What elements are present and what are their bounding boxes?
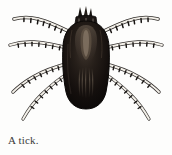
figure-page: A tick.: [0, 0, 172, 155]
figure-caption: A tick.: [8, 134, 39, 147]
tick-body: [63, 21, 110, 109]
tick-illustration: [0, 0, 172, 122]
